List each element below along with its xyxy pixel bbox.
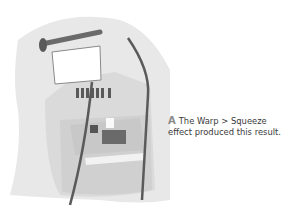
booth-image (0, 0, 170, 223)
caption-line1: The Warp > Squeeze (179, 116, 267, 126)
caption-letter: A (168, 115, 176, 126)
warped-booth-illustration (0, 0, 170, 223)
figure-caption: AThe Warp > Squeeze effect produced this… (168, 115, 287, 138)
caption-line2: effect produced this result. (168, 127, 281, 137)
